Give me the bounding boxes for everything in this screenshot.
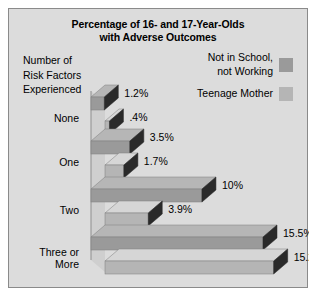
bar-value-label: 3.9% [168, 203, 192, 215]
category-label: Two [60, 204, 79, 216]
bar-teenage-mother [105, 201, 162, 226]
category-label: None [54, 112, 79, 124]
bar-value-label: 1.2% [124, 87, 148, 99]
category-label: One [59, 156, 79, 168]
bar-not-in-school [91, 177, 216, 202]
chart-panel: Percentage of 16- and 17-Year-Olds with … [8, 8, 308, 288]
plot-area: None1.2%.4%One3.5%1.7%Two10%3.9%Three or… [9, 9, 309, 289]
bar-value-label: 15.2% [294, 251, 309, 263]
bar-value-label: 3.5% [150, 131, 174, 143]
bar-value-label: 10% [222, 179, 243, 191]
bar-value-label: .4% [129, 111, 147, 123]
bar-value-label: 1.7% [144, 155, 168, 167]
category-label: More [55, 258, 79, 270]
bar-not-in-school [91, 85, 118, 110]
bar-teenage-mother [105, 153, 138, 178]
category-label: Three or [39, 246, 79, 258]
bar-not-in-school [91, 225, 277, 250]
bar-value-label: 15.5% [283, 227, 309, 239]
bar-teenage-mother [105, 249, 288, 274]
